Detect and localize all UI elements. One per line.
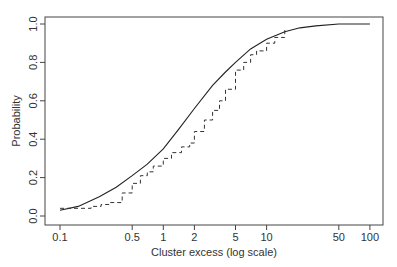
- x-axis-label: Cluster excess (log scale): [151, 246, 277, 258]
- x-tick-label: 2: [191, 231, 197, 243]
- x-axis: 0.10.51251050100: [52, 225, 379, 243]
- series-layer: [60, 24, 370, 210]
- y-tick-label: 1.0: [27, 16, 39, 31]
- x-tick-label: 0.5: [125, 231, 140, 243]
- y-tick-label: 0.4: [27, 132, 39, 147]
- y-tick-label: 0.0: [27, 208, 39, 223]
- x-tick-label: 50: [333, 231, 345, 243]
- x-tick-label: 0.1: [52, 231, 67, 243]
- fitted-curve-line: [60, 24, 370, 210]
- y-tick-label: 0.2: [27, 170, 39, 185]
- x-tick-label: 10: [260, 231, 272, 243]
- x-tick-label: 1: [160, 231, 166, 243]
- empirical-step-line: [60, 30, 285, 209]
- y-axis-label: Probability: [10, 95, 22, 147]
- chart: 0.10.51251050100 0.00.20.40.60.81.0 Clus…: [0, 0, 397, 267]
- chart-canvas: 0.10.51251050100 0.00.20.40.60.81.0 Clus…: [0, 0, 397, 267]
- y-axis: 0.00.20.40.60.81.0: [27, 16, 45, 223]
- x-tick-label: 5: [232, 231, 238, 243]
- y-tick-label: 0.8: [27, 55, 39, 70]
- x-tick-label: 100: [361, 231, 379, 243]
- y-tick-label: 0.6: [27, 93, 39, 108]
- plot-frame: [45, 17, 383, 225]
